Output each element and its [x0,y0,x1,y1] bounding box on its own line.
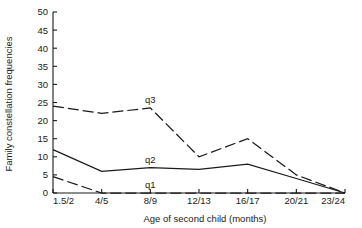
y-tick-label: 5 [43,169,48,180]
y-tick-label: 30 [37,79,48,90]
y-tick-label: 0 [43,187,48,198]
series-label-q2: q2 [145,154,156,165]
x-tick-label: 1.5/2 [53,195,74,206]
series-label-q1: q1 [145,179,156,190]
y-tick-label: 15 [37,133,48,144]
x-tick-label: 12/13 [187,195,211,206]
y-tick-label: 10 [37,151,48,162]
y-tick-label: 50 [37,6,48,17]
chart-container: 05101520253035404550 1.5/24/58/912/1316/… [0,0,362,228]
x-tick-label: 23/24 [321,195,345,206]
x-axis-title: Age of second child (months) [143,213,266,224]
y-tick-label: 25 [37,97,48,108]
series-layer [53,106,345,193]
y-axis-title: Family constellation frequencies [3,36,14,171]
y-axis: 05101520253035404550 [37,6,57,198]
x-tick-label: 20/21 [284,195,308,206]
series-label-q3: q3 [145,94,156,105]
x-tick-label: 4/5 [95,195,108,206]
y-tick-label: 20 [37,115,48,126]
y-tick-label: 35 [37,61,48,72]
line-chart: 05101520253035404550 1.5/24/58/912/1316/… [0,0,362,228]
x-tick-label: 16/17 [236,195,260,206]
x-tick-label: 8/9 [144,195,157,206]
y-tick-label: 45 [37,25,48,36]
y-tick-label: 40 [37,43,48,54]
